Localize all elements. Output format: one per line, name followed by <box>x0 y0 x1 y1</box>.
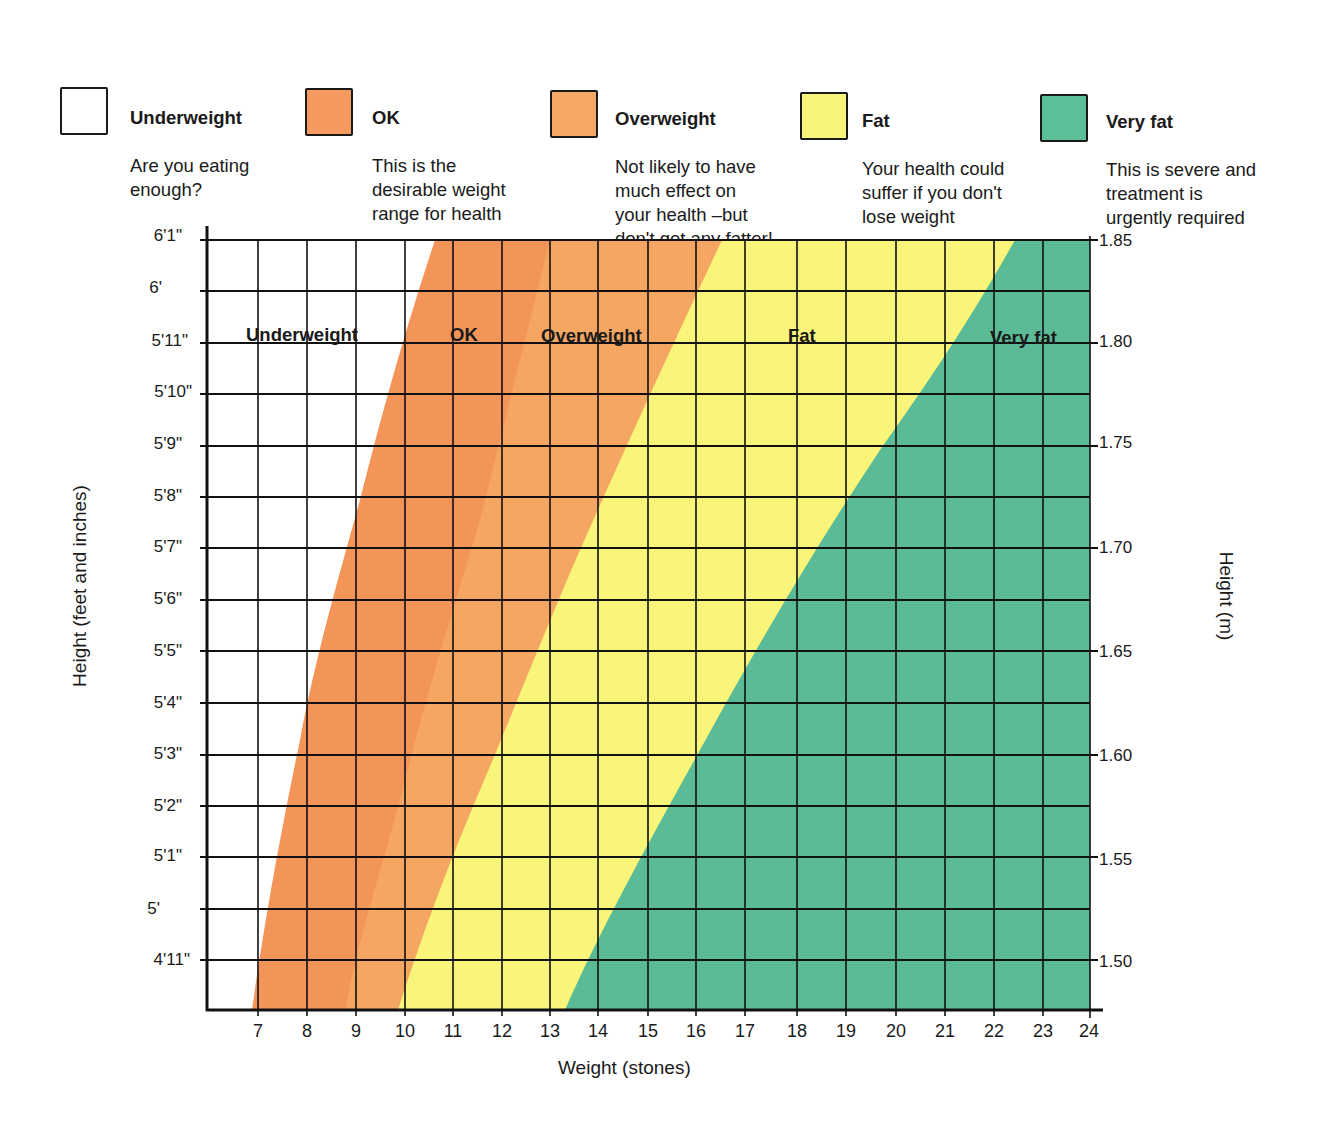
y-tick-label: 5'7" <box>122 537 182 557</box>
region-label-overweight: Overweight <box>541 325 642 347</box>
x-tick-label: 20 <box>876 1021 916 1042</box>
x-tick-label: 19 <box>826 1021 866 1042</box>
x-tick-label: 21 <box>925 1021 965 1042</box>
x-tick-label: 14 <box>578 1021 618 1042</box>
x-axis-title: Weight (stones) <box>558 1057 691 1079</box>
x-tick-label: 16 <box>676 1021 716 1042</box>
y-right-tick-label: 1.65 <box>1099 642 1132 662</box>
x-tick-label: 8 <box>287 1021 327 1042</box>
y-tick-label: 5'3" <box>122 744 182 764</box>
y-tick-label: 5'8" <box>122 486 182 506</box>
x-tick-label: 13 <box>530 1021 570 1042</box>
x-tick-label: 17 <box>725 1021 765 1042</box>
y-tick-label: 5'6" <box>122 589 182 609</box>
region-label-fat: Fat <box>788 325 816 347</box>
y-right-tick-label: 1.55 <box>1099 850 1132 870</box>
x-tick-label: 9 <box>336 1021 376 1042</box>
y-tick-label: 5'1" <box>122 846 182 866</box>
x-tick-label: 15 <box>628 1021 668 1042</box>
region-label-ok: OK <box>450 324 478 346</box>
y-right-tick-label: 1.80 <box>1099 332 1132 352</box>
y-tick-label: 4'11" <box>130 950 190 970</box>
x-tick-label: 22 <box>974 1021 1014 1042</box>
y-tick-label: 5' <box>100 899 160 919</box>
y-axis-left-title: Height (feet and inches) <box>69 471 91 701</box>
x-tick-label: 23 <box>1023 1021 1063 1042</box>
y-tick-label: 5'9" <box>122 434 182 454</box>
y-tick-label: 5'10" <box>132 382 192 402</box>
y-tick-label: 5'4" <box>122 693 182 713</box>
y-tick-label: 5'5" <box>122 641 182 661</box>
y-axis-right-title: Height (m) <box>1215 546 1237 646</box>
y-tick-label: 6' <box>102 278 162 298</box>
y-right-tick-label: 1.75 <box>1099 433 1132 453</box>
y-right-tick-label: 1.60 <box>1099 746 1132 766</box>
y-right-tick-label: 1.85 <box>1099 231 1132 251</box>
y-tick-label: 5'2" <box>122 796 182 816</box>
region-label-very-fat: Very fat <box>990 327 1057 349</box>
y-right-tick-label: 1.50 <box>1099 952 1132 972</box>
x-tick-label: 11 <box>433 1021 473 1042</box>
x-tick-label: 12 <box>482 1021 522 1042</box>
x-tick-label: 10 <box>385 1021 425 1042</box>
region-label-underweight: Underweight <box>246 324 358 346</box>
x-tick-label: 18 <box>777 1021 817 1042</box>
x-tick-label: 24 <box>1069 1021 1109 1042</box>
x-tick-label: 7 <box>238 1021 278 1042</box>
y-right-tick-label: 1.70 <box>1099 538 1132 558</box>
y-tick-label: 6'1" <box>122 226 182 246</box>
y-tick-label: 5'11" <box>128 331 188 351</box>
